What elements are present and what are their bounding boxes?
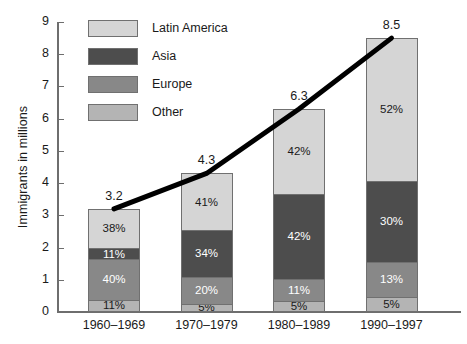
bar-segment[interactable]: 38% [89,210,139,248]
bar-total-label: 6.3 [269,90,329,103]
bar-segment-label: 34% [195,248,218,260]
bar-segment-label: 11% [103,249,125,260]
bar-segment-label: 5% [383,299,400,311]
bar-segment[interactable]: 13% [367,262,417,297]
bar-segment[interactable]: 5% [274,301,324,311]
bar-segment-label: 13% [380,274,403,286]
bar-total-label: 3.2 [84,190,144,203]
bar-segment[interactable]: 42% [274,194,324,278]
bar-segment[interactable]: 41% [182,174,232,230]
bar-segment-label: 30% [380,216,403,228]
bar-segment-label: 38% [102,223,125,235]
bar-segment[interactable]: 42% [274,110,324,194]
legend-item[interactable]: Europe [88,72,228,97]
legend-item[interactable]: Asia [88,44,228,69]
legend-item[interactable]: Latin America [88,16,228,41]
bar-total-label: 4.3 [177,154,237,167]
bar-segment[interactable]: 20% [182,277,232,304]
legend-item-label: Other [152,106,183,119]
legend-item-label: Asia [152,50,176,63]
bar-segment[interactable]: 5% [367,297,417,311]
stacked-bar[interactable]: 52%30%13%5% [366,38,418,312]
legend-swatch-icon [88,48,138,65]
plot-area: 38%11%40%11%3.21960–196941%34%20%5%4.319… [0,0,467,344]
legend-item-label: Europe [152,78,192,91]
bar-segment[interactable]: 5% [182,304,232,311]
bar-segment-label: 5% [198,304,215,311]
immigration-stacked-bar-chart: 9876543210 Immigrants in millions 38%11%… [0,0,467,344]
chart-legend: Latin AmericaAsiaEuropeOther [88,16,228,128]
bar-segment[interactable]: 52% [367,39,417,180]
bar-segment-label: 42% [287,146,310,158]
bar-segment[interactable]: 11% [274,279,324,301]
x-axis-category-label: 1990–1997 [337,318,447,332]
bar-segment-label: 5% [291,301,308,311]
bar-segment-label: 11% [288,285,310,297]
bar-segment[interactable]: 11% [89,248,139,259]
bar-segment[interactable]: 30% [367,181,417,263]
bar-segment[interactable]: 40% [89,259,139,299]
stacked-bar[interactable]: 42%42%11%5% [273,109,325,312]
bar-segment-label: 41% [195,197,218,209]
bar-segment-label: 42% [287,231,310,243]
bar-segment[interactable]: 11% [89,300,139,311]
legend-item-label: Latin America [152,22,228,35]
stacked-bar[interactable]: 41%34%20%5% [181,173,233,312]
legend-swatch-icon [88,104,138,121]
bar-total-label: 8.5 [362,19,422,32]
stacked-bar[interactable]: 38%11%40%11% [88,209,140,312]
legend-item[interactable]: Other [88,100,228,125]
bar-segment[interactable]: 34% [182,230,232,276]
bar-segment-label: 20% [195,285,218,297]
bar-segment-label: 52% [380,104,403,116]
legend-swatch-icon [88,20,138,37]
bar-segment-label: 40% [102,274,125,286]
bar-segment-label: 11% [103,300,125,311]
legend-swatch-icon [88,76,138,93]
